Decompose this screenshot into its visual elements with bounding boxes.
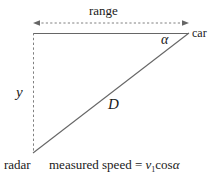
range-arrowhead-left xyxy=(33,20,40,26)
formula-equals-sign: = xyxy=(132,157,146,172)
car-label: car xyxy=(192,27,207,39)
distance-label: D xyxy=(108,97,119,112)
alpha-angle-label: α xyxy=(161,33,168,47)
distance-line xyxy=(33,33,189,153)
range-arrowhead-right xyxy=(182,20,189,26)
radar-geometry-diagram: range car α y D radar measured speed = v… xyxy=(0,0,222,175)
range-dimension-arrow xyxy=(33,20,189,26)
formula-alpha-angle: α xyxy=(173,157,180,172)
range-label: range xyxy=(89,4,118,17)
radar-label: radar xyxy=(4,158,31,171)
diagram-canvas xyxy=(0,0,222,175)
y-height-label: y xyxy=(16,85,23,100)
formula-cosine-function: cos xyxy=(155,157,172,172)
measured-speed-formula: measured speed = v1cosα xyxy=(49,158,179,174)
formula-lead-text: measured speed xyxy=(49,157,132,172)
